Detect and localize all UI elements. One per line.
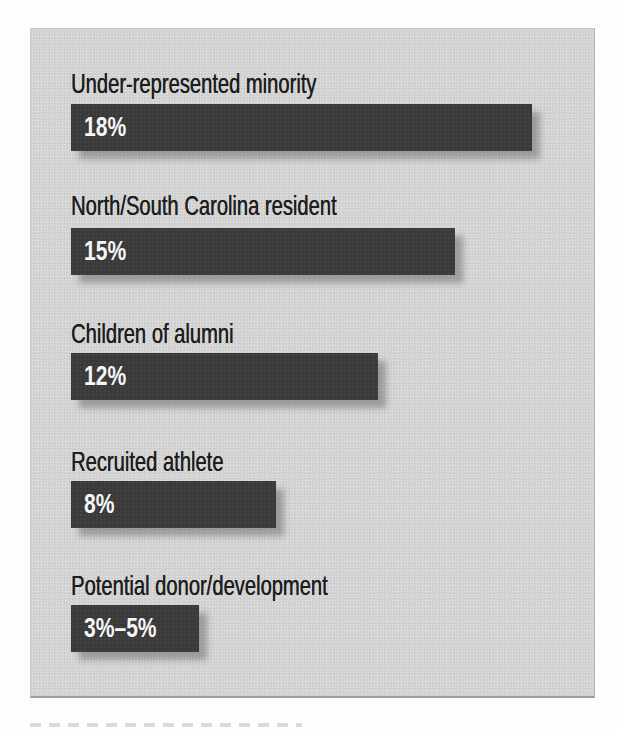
- bar-value-label: 18%: [71, 112, 138, 143]
- bar-value-label: 12%: [71, 361, 138, 392]
- bar-category-label: Potential donor/development: [71, 571, 427, 601]
- bar-category-label: Under-represented minority: [71, 69, 412, 99]
- bar-recruited-athlete: 8%: [71, 481, 276, 528]
- bar-potential-donor-development: 3%–5%: [71, 605, 199, 652]
- cropped-caption-remnant: [30, 723, 302, 727]
- bar-value-label: 8%: [71, 489, 123, 520]
- bar-category-label: Recruited athlete: [71, 447, 283, 477]
- bar-value-label: 15%: [71, 236, 138, 267]
- bar-category-label: Children of alumni: [71, 319, 297, 349]
- bar-category-label: North/South Carolina resident: [71, 191, 440, 221]
- scanned-figure-page: Under-represented minority 18% North/Sou…: [0, 0, 618, 730]
- bar-children-of-alumni: 12%: [71, 353, 378, 400]
- bar-under-represented-minority: 18%: [71, 104, 532, 151]
- chart-panel: Under-represented minority 18% North/Sou…: [30, 28, 595, 698]
- bar-value-label: 3%–5%: [71, 613, 177, 644]
- bar-north-south-carolina-resident: 15%: [71, 228, 455, 275]
